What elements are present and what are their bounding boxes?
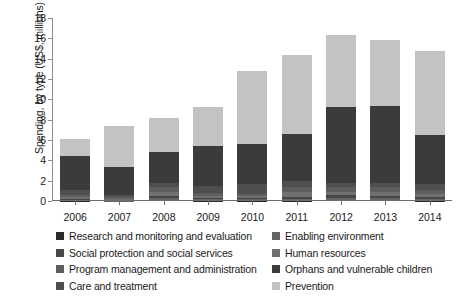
x-axis-tick-label-2009: 2009 [183,211,233,223]
legend-label: Program management and administration [69,263,257,275]
bar-segment [104,126,134,167]
legend-row: Care and treatmentPrevention [56,278,456,295]
bar-group-2007[interactable]: 2007 [97,18,141,201]
stacked-bar[interactable] [149,118,179,201]
bar-segment [370,40,400,106]
y-axis-tick-label: 2 [16,176,46,187]
bars-container: 200620072008200920102011201220132014 [53,18,452,201]
legend-row: Research and monitoring and evaluationEn… [56,228,456,245]
legend-swatch-icon [56,282,64,290]
legend-item[interactable]: Prevention [272,280,456,292]
y-axis-tick-mark [48,59,52,60]
legend-item[interactable]: Orphans and vulnerable children [272,263,456,275]
bar-group-2013[interactable]: 2013 [363,18,407,201]
y-axis-tick-label: 0 [16,196,46,207]
y-axis-tick-label: 6 [16,135,46,146]
chart-legend: Research and monitoring and evaluationEn… [56,228,456,294]
y-axis-tick-mark [48,160,52,161]
legend-item[interactable]: Enabling environment [272,230,456,242]
bar-segment [60,139,90,156]
legend-swatch-icon [272,265,280,273]
y-axis-tick-label: 18 [16,13,46,24]
x-axis-tick-mark [430,201,431,205]
legend-label: Care and treatment [69,280,157,292]
legend-item[interactable]: Social protection and social services [56,247,272,259]
legend-item[interactable]: Program management and administration [56,263,272,275]
bar-segment [149,152,179,183]
x-axis-tick-label-2008: 2008 [139,211,189,223]
plot-area: 024681012141618 200620072008200920102011… [52,18,452,201]
bar-segment [282,134,312,181]
x-axis-tick-label-2014: 2014 [405,211,455,223]
bar-segment [282,55,312,134]
bar-segment [415,51,445,136]
y-axis-tick-label: 12 [16,74,46,85]
x-axis-tick-mark [385,201,386,205]
bar-segment [193,107,223,146]
y-axis-tick-label: 16 [16,33,46,44]
y-axis-tick-label: 14 [16,54,46,65]
legend-label: Research and monitoring and evaluation [69,230,252,242]
stacked-bar-chart: Spending, by type (US$, millions) 024681… [0,0,465,305]
stacked-bar[interactable] [237,71,267,201]
x-axis-line [52,200,452,201]
x-axis-tick-mark [341,201,342,205]
bar-segment [193,146,223,187]
x-axis-tick-mark [208,201,209,205]
stacked-bar[interactable] [326,35,356,201]
bar-segment [60,156,90,190]
legend-label: Human resources [285,247,366,259]
y-axis-tick-mark [48,181,52,182]
x-axis-tick-label-2006: 2006 [50,211,100,223]
bar-group-2006[interactable]: 2006 [53,18,97,201]
legend-label: Orphans and vulnerable children [285,263,432,275]
bar-segment [237,71,267,144]
stacked-bar[interactable] [370,40,400,201]
y-axis-tick-mark [48,201,52,202]
stacked-bar[interactable] [193,107,223,201]
bar-group-2008[interactable]: 2008 [142,18,186,201]
bar-segment [149,118,179,152]
stacked-bar[interactable] [60,139,90,201]
x-axis-tick-mark [252,201,253,205]
y-axis-tick-mark [48,99,52,100]
x-axis-tick-label-2011: 2011 [272,211,322,223]
stacked-bar[interactable] [282,55,312,201]
legend-row: Program management and administrationOrp… [56,261,456,278]
bar-group-2009[interactable]: 2009 [186,18,230,201]
y-axis-tick-label: 10 [16,94,46,105]
y-axis-tick-label: 4 [16,155,46,166]
bar-segment [104,167,134,195]
x-axis-tick-label-2013: 2013 [361,211,411,223]
legend-item[interactable]: Human resources [272,247,456,259]
bar-group-2010[interactable]: 2010 [230,18,274,201]
x-axis-tick-label-2010: 2010 [228,211,278,223]
bar-group-2012[interactable]: 2012 [319,18,363,201]
bar-group-2011[interactable]: 2011 [275,18,319,201]
legend-swatch-icon [272,232,280,240]
legend-label: Prevention [285,280,334,292]
legend-swatch-icon [272,282,280,290]
y-axis-tick-mark [48,140,52,141]
legend-swatch-icon [56,232,64,240]
bar-segment [326,107,356,184]
legend-item[interactable]: Research and monitoring and evaluation [56,230,272,242]
y-axis-tick-mark [48,120,52,121]
stacked-bar[interactable] [104,126,134,201]
y-axis-tick-mark [48,79,52,80]
legend-label: Social protection and social services [69,247,233,259]
bar-segment [237,184,267,194]
legend-row: Social protection and social servicesHum… [56,245,456,262]
x-axis-tick-mark [297,201,298,205]
legend-item[interactable]: Care and treatment [56,280,272,292]
y-axis-tick-label: 8 [16,115,46,126]
legend-swatch-icon [56,265,64,273]
bar-segment [193,186,223,193]
legend-swatch-icon [56,249,64,257]
x-axis-tick-mark [164,201,165,205]
stacked-bar[interactable] [415,51,445,201]
bar-group-2014[interactable]: 2014 [408,18,452,201]
x-axis-tick-label-2012: 2012 [316,211,366,223]
legend-swatch-icon [272,249,280,257]
x-axis-tick-mark [75,201,76,205]
